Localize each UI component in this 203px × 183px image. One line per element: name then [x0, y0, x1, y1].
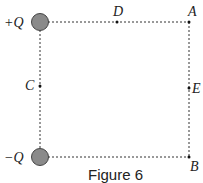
label-a: A — [187, 4, 197, 19]
label-e: E — [191, 81, 201, 96]
label-plus-q: +Q — [4, 15, 24, 30]
figure-caption: Figure 6 — [88, 166, 143, 183]
negative-charge — [32, 149, 49, 166]
positive-charge — [32, 14, 49, 31]
label-minus-q: −Q — [4, 150, 24, 165]
diagram-canvas: +Q −Q D A C E B Figure 6 — [0, 0, 203, 183]
label-b: B — [190, 159, 199, 174]
point-e — [188, 87, 191, 90]
label-c: C — [25, 78, 35, 93]
point-d — [116, 21, 119, 24]
label-d: D — [112, 4, 123, 19]
dashed-rectangle — [40, 22, 189, 157]
point-c — [39, 85, 42, 88]
point-a — [188, 21, 191, 24]
figure-6-diagram: +Q −Q D A C E B Figure 6 — [0, 0, 203, 183]
